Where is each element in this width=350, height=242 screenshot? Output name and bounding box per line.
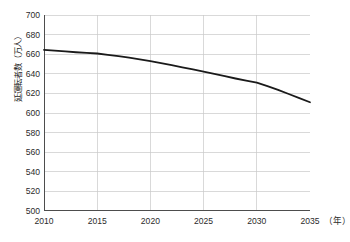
x-tick-label: 2035 (300, 216, 319, 226)
y-tick-label: 540 (4, 167, 40, 176)
y-tick-label: 560 (4, 148, 40, 157)
y-tick-label: 520 (4, 187, 40, 196)
x-tick-label: 2015 (88, 216, 107, 226)
x-axis-unit-label: （年） (324, 216, 350, 226)
y-tick-label: 600 (4, 109, 40, 118)
x-axis-tick-labels: 201020152020202520302035（年） (44, 216, 334, 230)
y-tick-label: 660 (4, 50, 40, 59)
y-tick-label: 620 (4, 89, 40, 98)
x-tick-label: 2030 (247, 216, 266, 226)
y-tick-label: 500 (4, 207, 40, 216)
y-tick-label: 580 (4, 128, 40, 137)
x-tick-label: 2025 (194, 216, 213, 226)
y-tick-label: 680 (4, 30, 40, 39)
y-axis-tick-labels: 500520540560580600620640660680700 (0, 15, 40, 211)
x-tick-label: 2010 (34, 216, 53, 226)
x-tick-label: 2020 (141, 216, 160, 226)
y-tick-label: 640 (4, 69, 40, 78)
data-series-line (44, 15, 310, 211)
plot-area (44, 15, 310, 211)
y-tick-label: 700 (4, 11, 40, 20)
